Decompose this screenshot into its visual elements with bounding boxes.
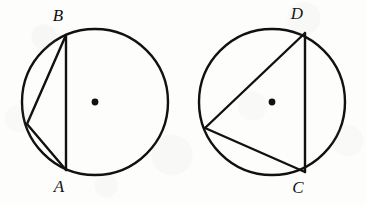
right-circle-center-dot bbox=[269, 99, 276, 106]
right-circle-figure: D C bbox=[199, 4, 345, 197]
right-chord-vertex3-to-c bbox=[205, 128, 305, 172]
left-circle-figure: B A bbox=[22, 6, 168, 196]
geometry-figure: B A D C bbox=[0, 0, 366, 204]
left-chord-vertex3-to-a bbox=[27, 124, 66, 170]
figure-canvas: B A D C bbox=[0, 0, 366, 204]
left-circle-center-dot bbox=[92, 99, 99, 106]
vertex-label-b: B bbox=[53, 6, 64, 25]
vertex-label-c: C bbox=[292, 178, 304, 197]
vertex-label-a: A bbox=[53, 177, 65, 196]
right-chord-d-to-vertex3 bbox=[205, 33, 305, 128]
vertex-label-d: D bbox=[290, 4, 304, 23]
